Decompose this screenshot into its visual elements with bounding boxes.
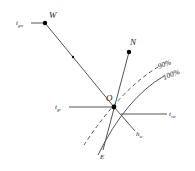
label-rh-90: 90%: [156, 57, 172, 70]
point-o: [112, 105, 117, 110]
point-n: [127, 50, 131, 54]
label-t-gw: tgw: [16, 19, 23, 28]
label-t-gr: tgr: [55, 103, 61, 112]
direction-marker: [72, 56, 74, 58]
psychrometric-diagram: W N O E tgw tgr tsw hw 90% 100%: [0, 0, 195, 171]
label-o: O: [106, 93, 113, 103]
rh-100-curve: [98, 76, 164, 155]
label-rh-100: 100%: [161, 67, 181, 82]
label-h-w: hw: [136, 130, 143, 139]
rh-90-curve: [84, 67, 158, 145]
w-o-line: [45, 23, 114, 107]
label-w: W: [49, 10, 58, 20]
point-w: [43, 21, 47, 25]
label-e: E: [99, 153, 105, 161]
h-w-line: [114, 107, 135, 131]
label-t-sw: tsw: [169, 110, 176, 119]
label-n: N: [129, 37, 137, 47]
